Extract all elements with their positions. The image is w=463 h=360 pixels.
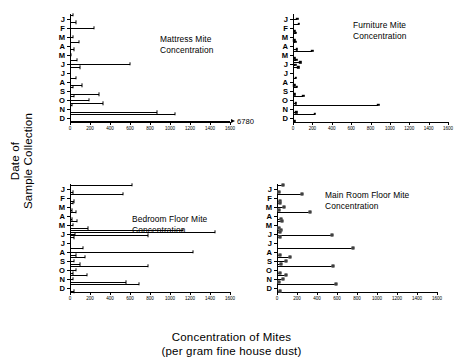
data-point-marker <box>332 264 335 267</box>
y-axis-month-label: M <box>54 220 65 229</box>
y-axis-tick <box>290 100 293 101</box>
x-axis-tick-label: 200 <box>293 296 300 301</box>
y-axis-month-label: M <box>54 202 65 211</box>
x-axis-tick-label: 1200 <box>392 296 402 301</box>
data-point-marker <box>283 205 286 208</box>
x-axis-tick-label: 400 <box>106 126 113 131</box>
x-axis-tick-label: 1200 <box>404 126 414 131</box>
panel-main-room-floor-mite: 02004006008001000120014001600JFMAMJJASON… <box>277 184 437 312</box>
data-point-marker <box>285 259 288 262</box>
y-axis-tick <box>290 28 293 29</box>
y-axis-month-label: J <box>54 229 65 238</box>
data-point-marker <box>148 264 149 267</box>
y-axis-month-label: A <box>54 211 65 220</box>
y-axis-tick <box>67 118 70 119</box>
panel-bedroom-floor-mite: 02004006008001000120014001600JFMAMJJASON… <box>70 184 230 312</box>
x-axis-tick <box>130 122 131 125</box>
y-axis-tick <box>67 109 70 110</box>
data-point-marker <box>294 41 296 43</box>
x-axis-tick <box>110 122 111 125</box>
x-axis-tick-label: 400 <box>106 296 113 301</box>
y-axis-month-label: J <box>277 14 288 23</box>
y-axis-month-label: J <box>261 238 272 247</box>
data-bar <box>277 266 333 267</box>
y-axis-month-label: J <box>277 68 288 77</box>
x-axis-tick-label: 800 <box>367 126 374 131</box>
data-point-marker <box>301 192 304 195</box>
data-point-marker <box>311 50 313 52</box>
x-axis-tick-label: 1400 <box>424 126 434 131</box>
y-axis-month-label: N <box>277 104 288 113</box>
y-axis-tick <box>274 225 277 226</box>
y-axis-month-label: M <box>277 50 288 59</box>
data-bar <box>293 114 315 115</box>
y-axis-month-label: M <box>54 32 65 41</box>
panel-mattress-mite: 02004006008001000120014001600JFMAMJJASON… <box>70 14 230 142</box>
data-point-marker <box>377 104 379 106</box>
x-axis-tick-label: 200 <box>309 126 316 131</box>
x-axis-tick-label: 800 <box>353 296 360 301</box>
data-point-marker <box>282 277 285 280</box>
panel-furniture-mite: 02004006008001000120014001600JFMAMJJASON… <box>293 14 448 142</box>
data-point-marker <box>298 23 300 25</box>
data-bar <box>70 28 94 29</box>
x-axis-title: Concentration of Mites (per gram fine ho… <box>0 331 463 358</box>
y-axis-month-label: M <box>277 32 288 41</box>
data-point-marker <box>75 20 76 23</box>
data-point-marker <box>73 235 74 238</box>
y-axis-tick <box>274 288 277 289</box>
y-axis-tick <box>67 288 70 289</box>
x-axis-tick <box>437 292 438 295</box>
x-axis-tick-label: 1000 <box>372 296 382 301</box>
data-point-marker <box>175 112 176 115</box>
data-point-marker <box>278 201 281 204</box>
y-axis-month-label: F <box>277 23 288 32</box>
data-point-marker <box>73 289 74 292</box>
data-point-marker <box>87 273 88 276</box>
x-axis-tick <box>130 292 131 295</box>
y-axis-month-label: D <box>54 113 65 122</box>
data-point-marker <box>280 219 283 222</box>
plot-area: 02004006008001000120014001600JFMAMJJASON… <box>70 14 230 122</box>
x-axis-tick <box>90 292 91 295</box>
y-axis-month-label: O <box>54 265 65 274</box>
x-axis-tick <box>70 292 71 295</box>
data-point-marker <box>73 94 74 97</box>
x-axis-tick-label: 600 <box>126 126 133 131</box>
data-point-marker <box>75 76 76 79</box>
data-point-marker <box>71 53 72 56</box>
x-axis-tick <box>230 292 231 295</box>
data-point-marker <box>309 210 312 213</box>
x-axis-tick <box>332 122 333 125</box>
data-point-marker <box>77 58 78 61</box>
y-axis-month-label: J <box>54 59 65 68</box>
data-bar <box>277 212 310 213</box>
data-bar <box>70 185 132 186</box>
data-point-marker <box>74 199 75 202</box>
y-axis-title: Date of Sample Collection <box>9 61 35 261</box>
y-axis-month-label: N <box>54 104 65 113</box>
data-point-marker <box>72 103 73 106</box>
data-point-marker <box>77 219 78 222</box>
plot-area: 02004006008001000120014001600JFMAMJJASON… <box>70 184 230 292</box>
y-axis-tick <box>67 73 70 74</box>
x-axis-tick-label: 1400 <box>205 296 215 301</box>
y-axis-month-label: A <box>54 41 65 50</box>
mite-concentration-figure: Date of Sample Collection Concentration … <box>0 0 463 360</box>
y-axis-tick <box>274 270 277 271</box>
y-axis-month-label: S <box>54 86 65 95</box>
plot-area: 02004006008001000120014001600JFMAMJJASON… <box>293 14 448 122</box>
y-axis-tick <box>67 243 70 244</box>
data-point-marker <box>130 62 131 65</box>
y-axis-tick <box>274 252 277 253</box>
y-axis-month-label: J <box>261 229 272 238</box>
data-point-marker <box>302 95 304 97</box>
x-axis-tick-label: 0 <box>292 126 294 131</box>
data-bar <box>293 51 312 52</box>
x-axis-tick <box>210 292 211 295</box>
data-bar <box>70 94 99 95</box>
data-point-marker <box>279 290 282 293</box>
data-point-marker <box>284 273 287 276</box>
x-axis-tick <box>409 122 410 125</box>
data-point-marker <box>79 65 80 68</box>
